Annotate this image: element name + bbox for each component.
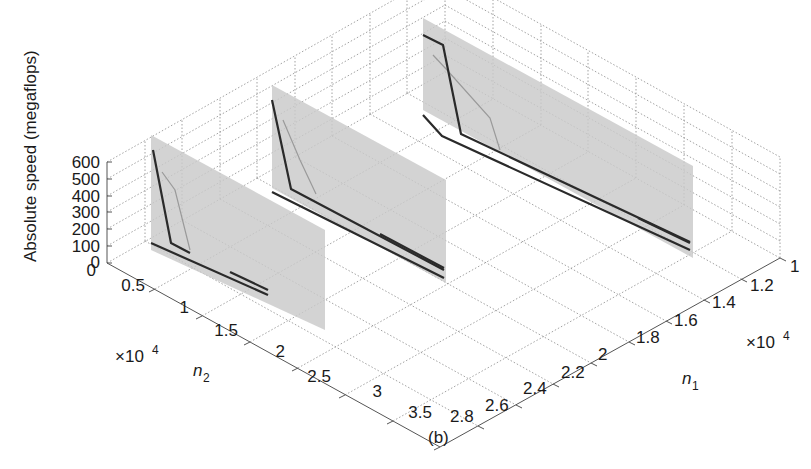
svg-text:2.5: 2.5 — [307, 367, 331, 386]
n2-axis-label: n 2 — [193, 361, 210, 385]
svg-text:4: 4 — [783, 329, 790, 343]
svg-text:2.6: 2.6 — [485, 396, 509, 415]
svg-text:0: 0 — [87, 261, 96, 280]
n1-multiplier: ×10 4 — [746, 329, 790, 352]
svg-text:1: 1 — [790, 257, 799, 276]
svg-text:2: 2 — [598, 345, 607, 364]
n2-multiplier: ×10 4 — [115, 343, 159, 366]
svg-text:n: n — [682, 369, 691, 388]
z-tick-labels: 600 500 400 300 200 100 0 0 — [72, 153, 100, 280]
svg-text:×10: ×10 — [115, 347, 144, 366]
svg-text:0.5: 0.5 — [121, 276, 145, 295]
svg-text:1: 1 — [180, 298, 189, 317]
svg-text:1.5: 1.5 — [214, 321, 238, 340]
n1-axis-label: n 1 — [682, 369, 699, 393]
svg-text:n: n — [193, 361, 202, 380]
svg-text:2.2: 2.2 — [561, 363, 585, 382]
svg-text:3.5: 3.5 — [408, 403, 432, 422]
svg-text:2.8: 2.8 — [450, 407, 474, 426]
figure-caption: (b) — [428, 428, 449, 447]
svg-text:4: 4 — [152, 343, 159, 357]
svg-text:1: 1 — [692, 379, 699, 393]
svg-text:1.2: 1.2 — [750, 276, 774, 295]
svg-text:2: 2 — [276, 342, 285, 361]
svg-text:1.6: 1.6 — [674, 311, 698, 330]
svg-text:2.4: 2.4 — [523, 379, 547, 398]
z-axis-label: Absolute speed (megaflops) — [21, 50, 40, 262]
n1-axis — [440, 258, 780, 447]
chart-3d-plot: 600 500 400 300 200 100 0 0 0.5 1 1.5 2 … — [0, 0, 811, 469]
svg-text:1.4: 1.4 — [712, 293, 736, 312]
svg-text:2: 2 — [203, 371, 210, 385]
svg-text:3: 3 — [373, 382, 382, 401]
svg-text:×10: ×10 — [746, 333, 775, 352]
svg-text:1.8: 1.8 — [636, 328, 660, 347]
